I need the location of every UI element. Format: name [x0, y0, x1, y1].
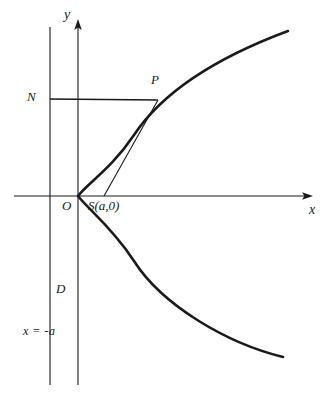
segment-np	[50, 99, 158, 100]
x-axis-label: x	[309, 203, 315, 217]
directrix-equation-label: x = -a	[23, 325, 55, 337]
parabola-figure: y x O S(a,0) P N D x = -a	[0, 0, 324, 397]
directrix-name-label: D	[56, 282, 65, 295]
x-axis	[14, 192, 313, 200]
point-n-label: N	[27, 90, 36, 103]
point-p-label: P	[151, 73, 159, 86]
origin-label: O	[62, 199, 71, 212]
segment-sp	[104, 100, 158, 196]
y-axis-label: y	[64, 8, 70, 22]
y-axis	[74, 19, 82, 385]
parabola-curve	[78, 31, 288, 357]
focus-label: S(a,0)	[88, 199, 119, 212]
